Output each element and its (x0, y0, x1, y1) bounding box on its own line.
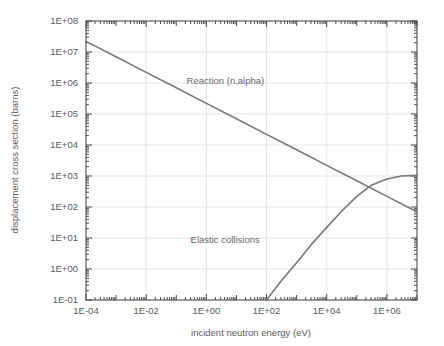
y-tick-label: 1E+05 (50, 108, 78, 119)
x-axis-title: incident neutron energy (eV) (191, 327, 311, 338)
plot-area-background (86, 21, 417, 300)
x-tick-label: 1E+00 (193, 305, 221, 316)
x-tick-label: 1E-02 (134, 305, 159, 316)
y-tick-label: 1E+06 (50, 77, 78, 88)
y-tick-label: 1E-01 (53, 294, 78, 305)
x-tick-label: 1E+06 (373, 305, 401, 316)
x-tick-label: 1E+04 (313, 305, 341, 316)
y-tick-label: 1E+03 (50, 170, 78, 181)
x-tick-label: 1E+02 (253, 305, 281, 316)
y-tick-label: 1E+07 (50, 46, 78, 57)
y-axis-title: displacement cross section (barns) (9, 87, 20, 234)
y-tick-label: 1E+08 (50, 15, 78, 26)
annotation-1: Reaction (n,alpha) (187, 75, 265, 86)
y-tick-label: 1E+04 (50, 139, 78, 150)
annotation-2: Elastic collisions (191, 234, 260, 245)
y-tick-label: 1E+00 (50, 263, 78, 274)
y-tick-label: 1E+02 (50, 201, 78, 212)
cross-section-log-log-plot: 1E-041E-021E+001E+021E+041E+06 1E+081E+0… (0, 0, 444, 346)
chart-figure: 1E-041E-021E+001E+021E+041E+06 1E+081E+0… (0, 0, 444, 346)
x-tick-label: 1E-04 (73, 305, 98, 316)
y-tick-label: 1E+01 (50, 232, 78, 243)
